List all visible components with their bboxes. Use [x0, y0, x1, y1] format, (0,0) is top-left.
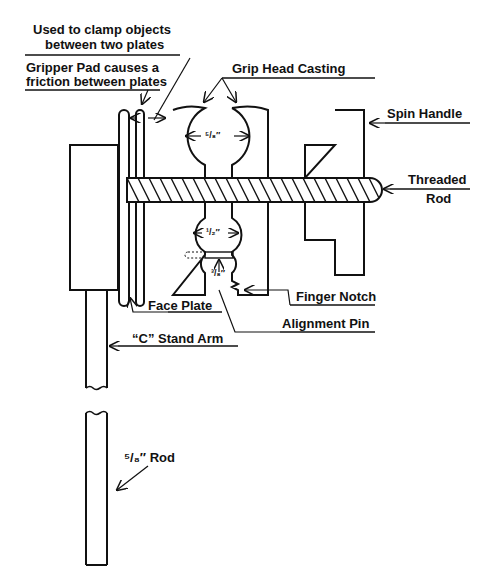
c-stand-arm-label: “C” Stand Arm [132, 331, 223, 346]
threaded-rod-label-line2: Rod [426, 191, 451, 206]
alignment-pin [205, 252, 233, 258]
smallest-opening-dimension: ³/₈″ [211, 268, 225, 278]
upper-opening-dimension: ⁵/₈″ [205, 130, 220, 140]
clamp-note-line1: Used to clamp objects [33, 22, 171, 37]
threaded-rod-label-line1: Threaded [408, 172, 467, 187]
alignment-pin-label: Alignment Pin [282, 316, 369, 331]
gripper-pad-label-line2: friction between plates [26, 74, 167, 89]
rod-label: ⁵/₈″ Rod [124, 450, 175, 465]
rod-lower [86, 412, 107, 566]
finger-notch-label: Finger Notch [296, 289, 376, 304]
gripper-plate [136, 110, 144, 306]
rod-upper [86, 290, 107, 390]
grip-head-casting-label: Grip Head Casting [232, 61, 345, 76]
spin-handle-label: Spin Handle [387, 106, 462, 121]
threaded-rod [127, 178, 382, 202]
lower-opening-dimension: ¹/₂″ [206, 227, 220, 237]
gripper-pad-label-line1: Gripper Pad causes a [26, 60, 159, 75]
clamp-note-line2: between two plates [45, 37, 164, 52]
c-stand-arm-block [70, 145, 118, 290]
face-plate-label: Face Plate [148, 298, 212, 313]
face-plate [119, 110, 129, 306]
